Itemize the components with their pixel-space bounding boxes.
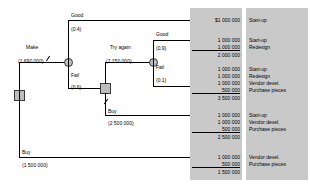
chance-make-spine-lower	[68, 62, 69, 88]
outcome-2-amount-1: 1 000 000	[192, 44, 240, 51]
chance-tryagain-spine-down	[153, 62, 154, 86]
buy2-branch-cost: (2 500 000)	[108, 120, 134, 126]
fail2-branch-line	[153, 86, 190, 87]
outcome-5-amount-1: 500 000	[192, 161, 240, 168]
outcome-3-amount-0: 1 000 000	[192, 66, 240, 72]
fail1-branch-label: Fail	[71, 72, 79, 78]
buyroot-branch-cost: (1 500 000)	[22, 162, 48, 168]
good1-branch-line	[68, 20, 190, 21]
outcome-4-amount-1: 1 000 000	[192, 119, 240, 125]
outcome-3-label-3: Purchase pieces	[249, 87, 286, 93]
outcome-5-amount-0: 1 000 000	[192, 154, 240, 160]
outcome-1-label-0: Start-up	[249, 17, 267, 23]
outcome-4-label-2: Purchase pieces	[249, 126, 286, 132]
outcome-2-label-1: Redesign	[249, 44, 270, 50]
outcome-4-amount-0: 1 000 000	[192, 112, 240, 118]
outcome-3-amount-1: 1 000 000	[192, 73, 240, 79]
outcome-3-total: 3 500 000	[192, 95, 240, 101]
outcome-3-label-2: Vendor devel.	[249, 80, 280, 86]
make-branch-label: Make	[26, 44, 38, 50]
make-branch-marker	[46, 56, 50, 61]
good1-branch-prob: (0.4)	[71, 26, 81, 32]
fail1-branch-prob: (0.6)	[71, 84, 81, 90]
root-spine-line	[19, 62, 20, 158]
chance-make-spine	[68, 20, 69, 63]
good2-branch-prob: (0.9)	[156, 45, 166, 51]
buy2-branch-label: Buy	[108, 108, 117, 114]
outcome-1-amount-0: $1 000 000	[192, 17, 240, 23]
outcome-2-amount-0: 1 000 000	[192, 37, 240, 43]
second-decision-spine-up	[105, 62, 106, 84]
chance-tryagain-spine-up	[153, 40, 154, 63]
outcome-5-label-1: Purchase pieces	[249, 161, 286, 167]
outcome-3-amount-2: 1 000 000	[192, 80, 240, 86]
make-branch-cost: (1 690 000)	[18, 58, 44, 64]
outcome-4-total: 2 500 000	[192, 134, 240, 140]
buyroot-branch-label: Buy	[22, 149, 31, 155]
tryagain-branch-label: Try again	[110, 44, 131, 50]
outcome-3-label-1: Redesign	[249, 73, 270, 79]
good2-branch-line	[153, 40, 190, 41]
outcome-4-label-0: Start-up	[249, 112, 267, 118]
outcome-2-label-0: Start-up	[249, 37, 267, 43]
outcome-4-amount-2: 500 000	[192, 126, 240, 133]
outcome-2-total: 2 000 000	[192, 52, 240, 58]
outcome-4-label-1: Vendor devel.	[249, 119, 280, 125]
good2-branch-label: Good	[156, 31, 168, 37]
good1-branch-label: Good	[71, 12, 83, 18]
outcome-3-label-0: Start-up	[249, 66, 267, 72]
tryagain-branch-cost: (2 150 000)	[106, 58, 132, 64]
decision-tree-diagram: Make (1 690 000) Good (0.4) Fail (0.6) T…	[0, 0, 310, 188]
outcome-3-amount-3: 500 000	[192, 87, 240, 94]
buyroot-branch-line	[19, 157, 190, 158]
fail2-branch-label: Fail	[156, 64, 164, 70]
fail2-branch-prob: (0.1)	[156, 77, 166, 83]
second-decision-spine-down	[105, 93, 106, 115]
outcome-5-label-0: Vendor devel.	[249, 154, 280, 160]
buy2-branch-line	[105, 115, 190, 116]
outcome-5-total: 1 500 000	[192, 169, 240, 175]
